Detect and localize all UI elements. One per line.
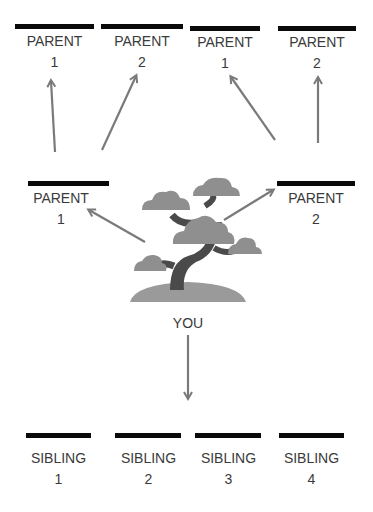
parent-2-bar [277, 181, 355, 186]
grandparent-2-label: PARENT [101, 33, 183, 50]
sibling-3-number: 3 [186, 471, 271, 488]
sibling-2-node: SIBLING 2 [106, 450, 191, 488]
parent-1-bar [28, 181, 109, 186]
grandparent-2-node: PARENT 2 [101, 33, 183, 71]
grandparent-2-bar [101, 24, 183, 29]
sibling-3-node: SIBLING 3 [186, 450, 271, 488]
grandparent-1-bar [15, 24, 94, 29]
sibling-1-bar [26, 433, 91, 438]
arrow-to-grandparent-2 [102, 76, 136, 150]
grandparent-1-number: 1 [15, 54, 94, 71]
grandparent-4-node: PARENT 2 [278, 34, 356, 72]
grandparent-3-bar [190, 26, 260, 31]
sibling-2-number: 2 [106, 471, 191, 488]
grandparent-3-node: PARENT 1 [190, 34, 260, 72]
grandparent-1-node: PARENT 1 [15, 33, 94, 71]
arrow-to-grandparent-1 [51, 81, 55, 152]
arrow-to-grandparent-3 [231, 77, 275, 140]
sibling-4-bar [279, 433, 344, 438]
sibling-2-label: SIBLING [106, 450, 191, 467]
grandparent-4-bar [278, 26, 356, 31]
grandparent-3-number: 1 [190, 55, 260, 72]
sibling-4-number: 4 [269, 471, 354, 488]
bonsai-tree-icon [130, 178, 262, 302]
sibling-3-label: SIBLING [186, 450, 271, 467]
grandparent-4-number: 2 [278, 55, 356, 72]
parent-2-label: PARENT [277, 190, 355, 207]
parent-1-node: PARENT 1 [20, 190, 102, 228]
sibling-2-bar [115, 433, 181, 438]
you-label: YOU [148, 315, 228, 332]
sibling-3-bar [195, 433, 261, 438]
grandparent-1-label: PARENT [15, 33, 94, 50]
parent-2-node: PARENT 2 [277, 190, 355, 228]
parent-1-number: 1 [20, 211, 102, 228]
sibling-1-label: SIBLING [16, 450, 101, 467]
grandparent-2-number: 2 [101, 54, 183, 71]
parent-1-label: PARENT [20, 190, 102, 207]
sibling-1-number: 1 [16, 471, 101, 488]
sibling-4-node: SIBLING 4 [269, 450, 354, 488]
sibling-4-label: SIBLING [269, 450, 354, 467]
grandparent-4-label: PARENT [278, 34, 356, 51]
grandparent-3-label: PARENT [190, 34, 260, 51]
sibling-1-node: SIBLING 1 [16, 450, 101, 488]
parent-2-number: 2 [277, 211, 355, 228]
